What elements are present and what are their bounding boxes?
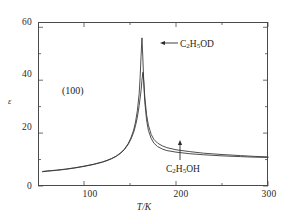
xtick-label-300: 300 bbox=[254, 189, 284, 199]
xtick-label-200: 200 bbox=[166, 189, 196, 199]
xtick-label-100: 100 bbox=[75, 189, 105, 199]
axis-ticks bbox=[38, 22, 268, 186]
ytick-label-40: 40 bbox=[6, 69, 32, 79]
series-label-c2h5oh: C2H5OH bbox=[166, 164, 200, 175]
curve-C2H5OD bbox=[43, 38, 268, 172]
ytick-label-20: 20 bbox=[6, 122, 32, 132]
annotation-arrows bbox=[160, 41, 182, 160]
crystal-plane-annotation: (100) bbox=[62, 85, 84, 96]
y-axis-label: ε bbox=[8, 96, 11, 106]
x-axis-label: T/K bbox=[0, 202, 288, 212]
data-curves bbox=[43, 38, 268, 172]
ytick-label-0: 0 bbox=[6, 181, 32, 191]
series-label-c2h5od: C2H5OD bbox=[180, 39, 214, 50]
figure-container: 60 40 20 0 100 200 300 ε T/K (100) C2H5O… bbox=[0, 0, 288, 224]
ytick-label-60: 60 bbox=[6, 17, 32, 27]
chart-svg bbox=[0, 0, 288, 224]
